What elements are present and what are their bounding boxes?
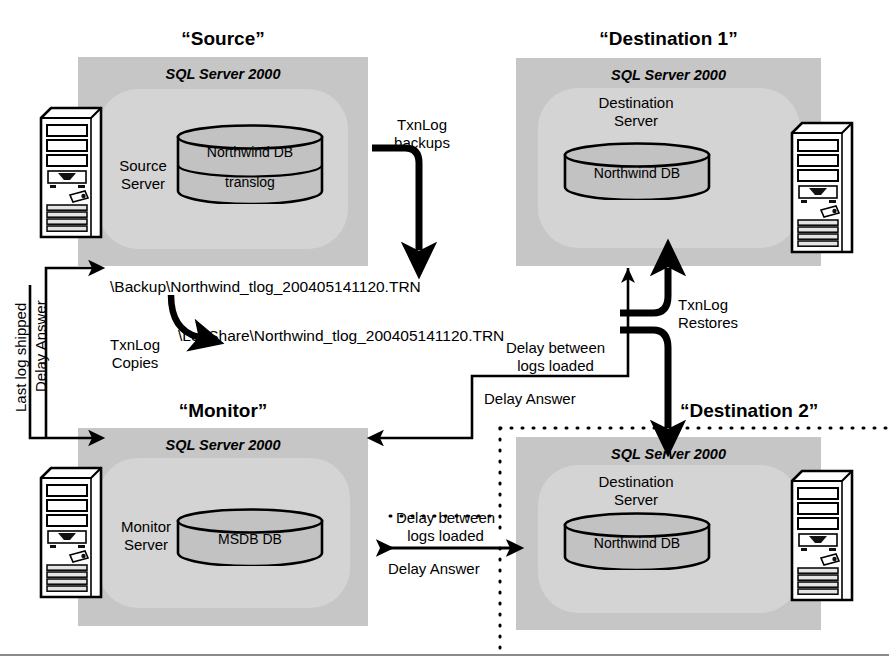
source-server-tower <box>38 105 104 240</box>
destination1-server-role: Destination Server <box>571 94 701 130</box>
source-title: “Source” <box>78 28 368 50</box>
monitor-server-tower <box>38 465 104 600</box>
destination1-title: “Destination 1” <box>516 28 821 50</box>
monitor-role-line2: Server <box>106 536 186 554</box>
monitor-sql-label: SQL Server 2000 <box>78 437 368 453</box>
destination2-database-cylinder: Northwind DB <box>563 512 711 570</box>
txnlog-backups-line2: backups <box>374 134 470 152</box>
bottom-divider <box>0 654 889 656</box>
source-role-line2: Server <box>106 175 180 193</box>
monitor-database-cylinder: MSDB DB <box>176 508 324 566</box>
txnlog-copies-label: TxnLog Copies <box>90 336 180 372</box>
txnlog-backups-label: TxnLog backups <box>374 116 470 152</box>
destination2-title: “Destination 2” <box>680 400 870 422</box>
destination1-role-line2: Server <box>571 112 701 130</box>
delay-between-bot-line1: Delay between <box>378 509 513 527</box>
txnlog-restores-arrows <box>620 268 668 428</box>
destination1-role-line1: Destination <box>571 94 701 112</box>
txnlog-restores-label: TxnLog Restores <box>678 296 738 332</box>
delay-answer-bottom-label: Delay Answer <box>388 560 480 578</box>
txnlog-copies-line2: Copies <box>90 354 180 372</box>
txnlog-backups-line1: TxnLog <box>374 116 470 134</box>
source-server-role: Source Server <box>106 157 180 193</box>
destination1-server-tower <box>789 120 855 255</box>
destination1-database-cylinder: Northwind DB <box>563 142 711 200</box>
monitor-title: “Monitor” <box>78 400 368 422</box>
destination2-sql-label: SQL Server 2000 <box>516 446 821 462</box>
monitor-server-role: Monitor Server <box>106 518 186 554</box>
delay-between-mid-line2: logs loaded <box>488 357 623 375</box>
txnlog-restores-line1: TxnLog <box>678 296 738 314</box>
monitor-role-line1: Monitor <box>106 518 186 536</box>
delay-between-logs-bottom-label: Delay between logs loaded <box>378 509 513 545</box>
logshare-file-path: \LogShare\Northwind_tlog_200405141120.TR… <box>178 327 504 345</box>
delay-between-mid-line1: Delay between <box>488 339 623 357</box>
destination1-sql-label: SQL Server 2000 <box>516 67 821 83</box>
delay-answer-mid-label: Delay Answer <box>484 390 576 408</box>
last-log-shipped-label: Last log shipped <box>12 303 29 412</box>
source-database-cylinder: Northwind DB translog <box>176 124 324 204</box>
delay-between-bot-line2: logs loaded <box>378 527 513 545</box>
txnlog-backups-arrow <box>372 148 419 250</box>
backup-file-path: \Backup\Northwind_tlog_200405141120.TRN <box>110 278 421 296</box>
destination2-role-line2: Server <box>571 491 701 509</box>
txnlog-copies-line1: TxnLog <box>90 336 180 354</box>
txnlog-restores-line2: Restores <box>678 314 738 332</box>
delay-answer-left-label: Delay Answer <box>32 300 49 392</box>
source-role-line1: Source <box>106 157 180 175</box>
destination2-server-role: Destination Server <box>571 473 701 509</box>
delay-between-logs-mid-label: Delay between logs loaded <box>488 339 623 375</box>
destination2-server-tower <box>789 468 855 603</box>
source-sql-label: SQL Server 2000 <box>78 66 368 82</box>
diagram-canvas: “Source” SQL Server 2000 Source Server <box>0 0 889 667</box>
destination2-role-line1: Destination <box>571 473 701 491</box>
